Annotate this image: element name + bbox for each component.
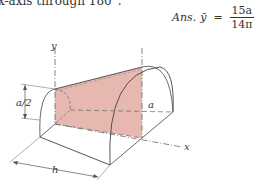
h-arrow-left (13, 161, 18, 165)
label-y-axis: y (50, 40, 57, 51)
h-ext-right (97, 165, 110, 180)
label-x-axis: x (184, 141, 190, 152)
h-ext-left (10, 137, 40, 162)
near-arc (40, 89, 55, 137)
label-h: h (52, 164, 58, 175)
base-right-edge (142, 112, 173, 138)
base-front-edge (110, 138, 142, 165)
base-left-edge (40, 124, 55, 137)
base-near-edge (40, 137, 110, 165)
h-arrow-right (93, 174, 98, 178)
figure-diagram: a/2 a h y x (0, 0, 254, 191)
a-half-arrow-top (23, 85, 27, 90)
label-a: a (148, 99, 154, 110)
label-a-half: a/2 (16, 97, 32, 108)
a-half-ext-bottom (21, 118, 40, 120)
